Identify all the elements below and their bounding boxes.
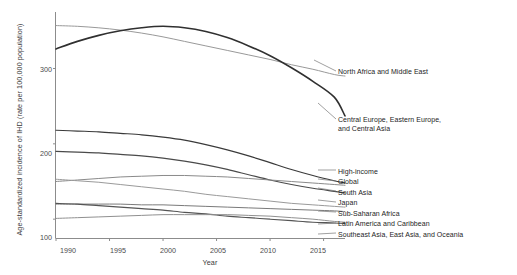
y-axis-title: Age-standardized incidence of IHD (rate …: [15, 15, 24, 245]
series-label-line-2: and Central Asia: [338, 125, 390, 132]
leader-line-central-europe-eastern-europe-and-central-asia: [318, 103, 336, 119]
series-label-central-europe-eastern-europe-and-central-asia: Central Europe, Eastern Europe, and Cent…: [338, 115, 441, 133]
chart-figure: Age-standardized incidence of IHD (rate …: [0, 0, 517, 275]
y-tick-label-100: 100: [26, 233, 52, 242]
series-label-south-asia: South Asia: [338, 188, 372, 197]
x-axis-title: Year: [150, 258, 270, 267]
x-tick-label-2015: 2015: [298, 246, 338, 255]
leader-line-latin-america-and-caribbean: [318, 223, 336, 224]
series-line-north-africa-and-middle-east: [56, 26, 345, 76]
series-label-sub-saharan-africa: Sub-Saharan Africa: [338, 209, 400, 218]
x-tick-label-2010: 2010: [248, 246, 288, 255]
x-tick-label-2000: 2000: [148, 246, 188, 255]
series-label-southeast-asia-east-asia-and-oceania: Southeast Asia, East Asia, and Oceania: [338, 230, 463, 239]
x-tick-label-2005: 2005: [198, 246, 238, 255]
series-line-japan: [56, 179, 345, 207]
y-tick-label-200: 200: [26, 149, 52, 158]
series-label-latin-america-and-caribbean: Latin America and Caribbean: [338, 219, 430, 228]
series-line-high-income: [56, 130, 345, 183]
series-label-global: Global: [338, 177, 359, 186]
series-lines: [56, 26, 345, 224]
leader-line-north-africa-and-middle-east: [314, 60, 336, 71]
x-tick-label-1990: 1990: [48, 246, 88, 255]
series-label-japan: Japan: [338, 198, 357, 207]
leader-line-japan: [318, 200, 336, 202]
series-label-north-africa-and-middle-east: North Africa and Middle East: [338, 67, 428, 76]
leader-line-southeast-asia-east-asia-and-oceania: [318, 233, 336, 234]
series-line-central-europe-eastern-europe-and-central-asia: [56, 26, 345, 116]
x-tick-label-1995: 1995: [98, 246, 138, 255]
series-label-high-income: High-income: [338, 167, 378, 176]
leader-lines: [314, 60, 336, 234]
series-line-south-asia: [56, 175, 345, 185]
series-label-line-1: Central Europe, Eastern Europe,: [338, 116, 441, 123]
y-tick-label-300: 300: [26, 65, 52, 74]
